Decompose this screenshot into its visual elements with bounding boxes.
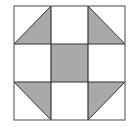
center-square	[51, 44, 88, 82]
quilt-block-diagram	[0, 0, 129, 127]
